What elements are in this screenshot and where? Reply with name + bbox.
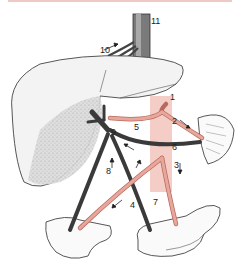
label-9: 9 — [111, 127, 116, 137]
label-2: 2 — [172, 116, 177, 126]
label-5: 5 — [134, 122, 139, 132]
portal-system-diagram: 1 2 3 4 5 6 7 8 9 10 11 — [0, 0, 240, 269]
label-1: 1 — [170, 92, 175, 102]
inferior-vena-cava — [133, 14, 150, 60]
label-4: 4 — [130, 200, 135, 210]
label-6: 6 — [172, 142, 177, 152]
label-11: 11 — [151, 16, 160, 26]
label-7: 7 — [153, 197, 158, 207]
label-3: 3 — [174, 160, 179, 170]
label-8: 8 — [106, 166, 111, 176]
large-intestine — [46, 217, 112, 258]
label-10: 10 — [100, 45, 110, 55]
